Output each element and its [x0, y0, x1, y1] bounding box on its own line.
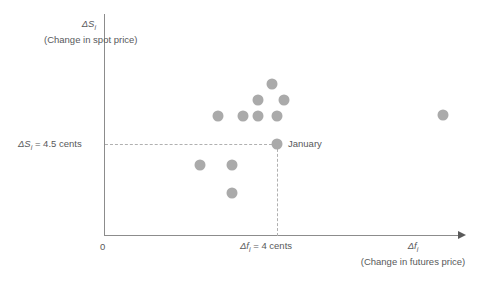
- spot-price-threshold-label: ΔSi = 4.5 cents: [18, 138, 82, 154]
- x-axis-symbol-text: Δf: [408, 240, 417, 251]
- x-axis-symbol: Δfi: [345, 240, 481, 256]
- data-point: [195, 160, 206, 171]
- data-point: [253, 111, 264, 122]
- data-point: [279, 95, 290, 106]
- data-point: [213, 111, 224, 122]
- x-axis-label: Δfi (Change in futures price): [345, 240, 481, 268]
- origin-label: 0: [100, 241, 105, 253]
- spot-threshold-value: = 4.5 cents: [35, 138, 82, 149]
- futures-threshold-value: = 4 cents: [253, 240, 292, 251]
- x-axis-line: [104, 235, 461, 236]
- futures-price-threshold-line: [277, 144, 278, 236]
- y-axis-label: ΔSi (Change in spot price): [44, 18, 96, 46]
- y-axis-symbol-text: ΔS: [82, 18, 95, 29]
- data-point: [238, 111, 249, 122]
- futures-price-threshold-label: Δfi = 4 cents: [240, 240, 292, 256]
- data-point: [253, 95, 264, 106]
- data-point: [227, 188, 238, 199]
- data-point: [227, 160, 238, 171]
- y-axis-symbol: ΔSi: [44, 18, 96, 34]
- data-point: [272, 111, 283, 122]
- y-axis-description: (Change in spot price): [44, 34, 96, 46]
- x-axis-symbol-subscript: i: [417, 246, 419, 253]
- data-point: [272, 139, 283, 150]
- futures-threshold-symbol: Δf: [240, 240, 249, 251]
- y-axis-line: [104, 14, 105, 236]
- spot-threshold-symbol: ΔS: [18, 138, 31, 149]
- spot-threshold-subscript: i: [31, 144, 33, 151]
- scatter-plot-figure: ΔSi (Change in spot price) ΔSi = 4.5 cen…: [0, 0, 491, 283]
- x-axis-description: (Change in futures price): [345, 256, 481, 268]
- spot-price-threshold-line: [105, 144, 277, 145]
- x-axis-arrowhead-icon: [458, 231, 466, 239]
- y-axis-symbol-subscript: i: [94, 24, 96, 31]
- data-point: [267, 79, 278, 90]
- data-point: [438, 110, 449, 121]
- futures-threshold-subscript: i: [249, 246, 251, 253]
- january-annotation-label: January: [288, 138, 322, 150]
